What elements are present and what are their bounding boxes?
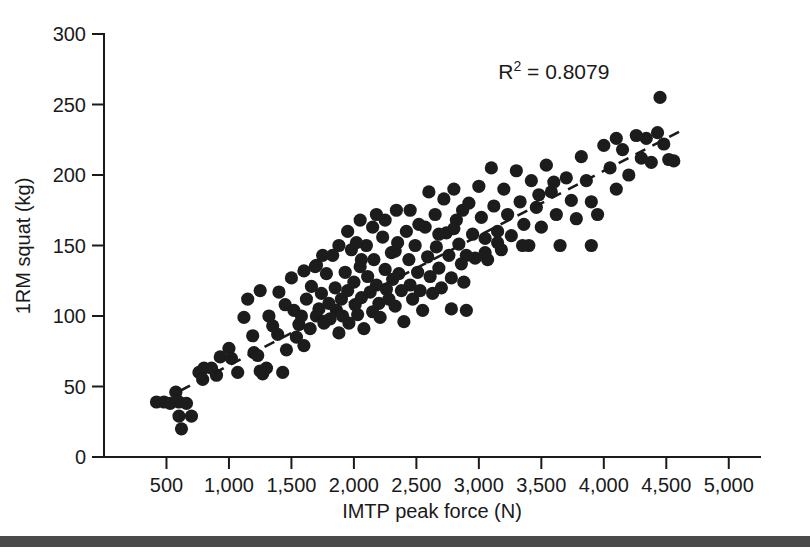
data-point: [347, 276, 360, 289]
data-point: [366, 221, 379, 234]
data-point: [300, 292, 313, 305]
data-point: [460, 249, 473, 262]
data-point: [254, 284, 267, 297]
data-point: [376, 230, 389, 243]
data-point: [422, 185, 435, 198]
data-point: [547, 175, 560, 188]
data-point: [397, 315, 410, 328]
data-point: [297, 339, 310, 352]
data-point: [616, 143, 629, 156]
data-point: [610, 183, 623, 196]
data-point: [416, 304, 429, 317]
data-point: [597, 139, 610, 152]
data-point: [645, 156, 658, 169]
data-point: [585, 239, 598, 252]
data-point: [350, 236, 363, 249]
y-tick-label: 200: [53, 164, 86, 186]
r-squared-value: = 0.8079: [521, 60, 609, 83]
data-point: [429, 208, 442, 221]
data-point: [653, 91, 666, 104]
data-point: [460, 304, 473, 317]
data-point: [379, 214, 392, 227]
data-point: [447, 183, 460, 196]
data-point: [525, 174, 538, 187]
data-point: [491, 236, 504, 249]
data-point: [354, 214, 367, 227]
x-tick-label: 2,500: [391, 474, 441, 496]
y-tick-label: 50: [64, 376, 86, 398]
data-point: [172, 410, 185, 423]
data-point: [272, 285, 285, 298]
data-point: [516, 239, 529, 252]
data-point: [667, 154, 680, 167]
y-tick-label: 150: [53, 235, 86, 257]
x-tick-label: 2,000: [329, 474, 379, 496]
data-point: [445, 271, 458, 284]
x-tick-label: 1,500: [266, 474, 316, 496]
data-point: [389, 245, 402, 258]
y-axis-title: 1RM squat (kg): [12, 178, 34, 315]
data-point: [510, 164, 523, 177]
data-point: [414, 284, 427, 297]
plot-background: [0, 0, 810, 555]
data-point: [390, 204, 403, 217]
x-tick-label: 4,500: [641, 474, 691, 496]
data-point: [409, 239, 422, 252]
data-point: [175, 422, 188, 435]
x-tick-label: 3,000: [454, 474, 504, 496]
data-point: [310, 259, 323, 272]
data-point: [457, 276, 470, 289]
data-point: [421, 250, 434, 263]
data-point: [610, 132, 623, 145]
data-point: [472, 180, 485, 193]
y-tick-label: 100: [53, 305, 86, 327]
data-point: [304, 322, 317, 335]
data-point: [442, 249, 455, 262]
data-point: [651, 126, 664, 139]
x-tick-label: 500: [150, 474, 183, 496]
x-tick-label: 1,000: [204, 474, 254, 496]
data-point: [246, 329, 259, 342]
r-squared-exponent: 2: [513, 58, 521, 74]
data-point: [501, 208, 514, 221]
data-point: [456, 204, 469, 217]
data-point: [591, 208, 604, 221]
data-point: [485, 161, 498, 174]
data-point: [237, 311, 250, 324]
data-point: [297, 264, 310, 277]
data-point: [404, 204, 417, 217]
data-point: [185, 410, 198, 423]
data-point: [560, 171, 573, 184]
x-axis-title: IMTP peak force (N): [342, 500, 522, 522]
data-point: [295, 309, 308, 322]
data-point: [640, 132, 653, 145]
data-point: [332, 239, 345, 252]
data-point: [430, 240, 443, 253]
figure-container: 050100150200250300 5001,0001,5002,0002,5…: [0, 0, 810, 555]
data-point: [585, 195, 598, 208]
page-edge-bar: [0, 536, 810, 547]
data-point: [475, 211, 488, 224]
data-point: [532, 188, 545, 201]
data-point: [332, 326, 345, 339]
data-point: [435, 281, 448, 294]
data-point: [487, 199, 500, 212]
data-point: [389, 300, 402, 313]
data-point: [479, 246, 492, 259]
data-point: [180, 397, 193, 410]
data-point: [339, 266, 352, 279]
data-point: [231, 366, 244, 379]
y-tick-label: 250: [53, 94, 86, 116]
scatter-plot: 050100150200250300 5001,0001,5002,0002,5…: [0, 0, 810, 555]
data-point: [241, 292, 254, 305]
data-point: [260, 362, 273, 375]
data-point: [320, 267, 333, 280]
data-point: [357, 322, 370, 335]
data-point: [280, 343, 293, 356]
data-point: [553, 239, 566, 252]
data-point: [251, 349, 264, 362]
y-tick-label: 300: [53, 23, 86, 45]
data-point: [505, 229, 518, 242]
r-squared-base: R: [498, 60, 513, 83]
data-point: [437, 192, 450, 205]
